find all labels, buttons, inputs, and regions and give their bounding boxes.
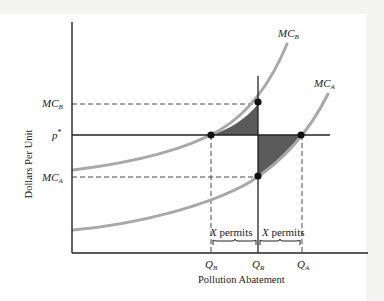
x-tick-qr: QR bbox=[252, 259, 264, 272]
y-tick-mca: MCA bbox=[42, 172, 63, 185]
y-tick-mcb: MCB bbox=[42, 98, 63, 111]
x-permits-right: X X permitspermits bbox=[262, 227, 304, 238]
point-mca-qa bbox=[297, 131, 304, 138]
x-tick-qa: QA bbox=[297, 259, 309, 272]
x-tick-qb: QB bbox=[205, 259, 217, 272]
mca-curve bbox=[73, 94, 328, 230]
brace-left bbox=[213, 239, 256, 245]
x-permits-left: X X permitspermits bbox=[210, 227, 252, 238]
mca-curve-label: MCA bbox=[314, 78, 335, 91]
mcb-curve-label: MCB bbox=[278, 28, 299, 41]
point-mcb-qr bbox=[254, 98, 261, 105]
brace-right bbox=[260, 239, 300, 245]
point-mcb-qb bbox=[207, 131, 214, 138]
y-axis-label: Dollars Per Unit bbox=[23, 130, 34, 199]
mcb-curve bbox=[73, 44, 287, 170]
y-tick-pstar: p* bbox=[52, 129, 62, 141]
point-mca-qr bbox=[254, 172, 261, 179]
economics-diagram bbox=[0, 0, 384, 301]
x-axis-label: Pollution Abatement bbox=[198, 275, 285, 286]
